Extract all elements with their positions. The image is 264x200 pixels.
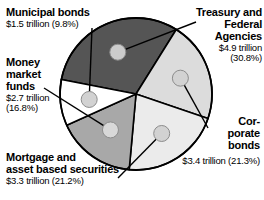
- slice-label-municipal-bonds-value: $1.5 trillion (9.8%): [6, 19, 132, 29]
- slice-marker-dot: [172, 70, 188, 86]
- slice-label-corporate-bonds-title: Cor- porate bonds: [198, 116, 260, 152]
- slice-marker-dot: [81, 91, 97, 107]
- slice-label-municipal-bonds: Municipal bonds $1.5 trillion (9.8%): [6, 7, 132, 29]
- slice-label-mortgage-asset-backed-title: Mortgage and asset based securities: [6, 152, 156, 176]
- slice-label-mortgage-asset-backed-value: $3.3 trillion (21.2%): [6, 176, 156, 186]
- slice-label-treasury-federal-agencies-title: Treasury and Federal Agencies: [178, 7, 262, 43]
- slice-label-money-market-funds-value: $2.7 trillion (16.8%): [6, 93, 78, 114]
- slice-label-mortgage-asset-backed: Mortgage and asset based securities $3.3…: [6, 152, 156, 186]
- slice-marker-dot: [110, 44, 126, 60]
- slice-label-money-market-funds-title: Money market funds: [6, 57, 78, 93]
- slice-marker-dot: [154, 125, 170, 141]
- slice-marker-dot: [102, 122, 118, 138]
- slice-label-treasury-federal-agencies: Treasury and Federal Agencies $4.9 trill…: [178, 7, 262, 63]
- pie-chart-figure: Municipal bonds $1.5 trillion (9.8%) Mon…: [0, 0, 264, 200]
- slice-label-treasury-federal-agencies-value: $4.9 trillion (30.8%): [178, 43, 262, 64]
- slice-label-corporate-bonds: Cor- porate bonds: [198, 116, 260, 152]
- slice-label-money-market-funds: Money market funds $2.7 trillion (16.8%): [6, 57, 78, 113]
